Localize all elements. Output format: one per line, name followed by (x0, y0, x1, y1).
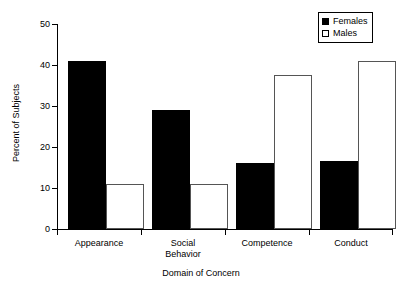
bar-social-behavior-females (152, 110, 190, 229)
legend-label-males: Males (333, 29, 357, 38)
x-tick-separator-3 (309, 230, 310, 235)
chart-legend: Females Males (318, 12, 373, 43)
filled-square-icon (322, 18, 329, 25)
y-tick-label-0: 0 (10, 225, 50, 234)
x-tick-separator-4 (392, 230, 393, 235)
bar-chart-figure: 50 40 30 20 10 0 Appearance Social Behav… (0, 0, 402, 291)
legend-entry-males: Males (322, 27, 368, 39)
bar-appearance-females (68, 61, 106, 229)
x-tick-separator-1 (141, 230, 142, 235)
x-category-label-conduct: Conduct (309, 238, 393, 249)
y-tick-label-50: 50 (10, 20, 50, 29)
x-tick-separator-0 (57, 230, 58, 235)
bar-conduct-males (358, 61, 396, 229)
bar-conduct-females (320, 161, 358, 229)
x-category-label-competence: Competence (225, 238, 309, 249)
x-category-label-social-behavior: Social Behavior (141, 238, 225, 260)
bar-social-behavior-males (190, 184, 228, 229)
x-tick-separator-2 (225, 230, 226, 235)
bar-competence-males (274, 75, 312, 229)
bar-appearance-males (106, 184, 144, 229)
x-axis-title: Domain of Concern (0, 268, 402, 278)
legend-label-females: Females (333, 17, 368, 26)
y-axis-title: Percent of Subjects (11, 58, 21, 188)
bar-competence-females (236, 163, 274, 229)
x-category-label-appearance: Appearance (57, 238, 141, 249)
open-square-icon (322, 30, 329, 37)
plot-area (58, 24, 392, 229)
legend-entry-females: Females (322, 15, 368, 27)
